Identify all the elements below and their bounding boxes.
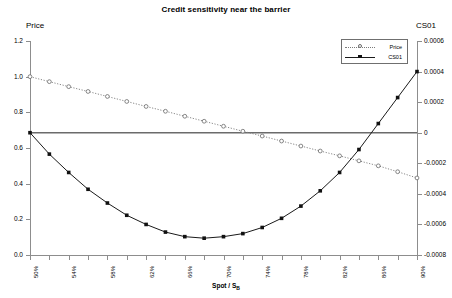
left-tick-label: 1.2 xyxy=(1,37,23,44)
data-point-marker-cs01 xyxy=(415,70,419,74)
x-tick-label: 82% xyxy=(342,266,348,278)
data-point-marker-cs01 xyxy=(260,226,264,230)
x-tick-label: 62% xyxy=(149,266,155,278)
data-point-marker-cs01 xyxy=(377,122,381,126)
x-tick-mark xyxy=(224,256,225,260)
data-point-marker-price xyxy=(144,105,148,109)
x-tick-mark xyxy=(69,256,70,260)
x-tick-mark xyxy=(301,256,302,260)
data-point-marker-price xyxy=(183,114,187,118)
right-tick-label: -0.0008 xyxy=(424,251,446,258)
legend-item-cs01: CS01 xyxy=(345,52,404,62)
data-point-marker-cs01 xyxy=(67,171,71,175)
left-tick-label: 0.4 xyxy=(1,180,23,187)
data-point-marker-price xyxy=(241,129,245,133)
data-point-marker-cs01 xyxy=(357,148,361,152)
left-tick-label: 0.2 xyxy=(1,215,23,222)
right-tick-label: 0.0004 xyxy=(424,68,444,75)
x-tick-label: 50% xyxy=(33,266,39,278)
x-tick-mark xyxy=(127,256,128,260)
data-point-marker-price xyxy=(338,154,342,158)
right-tick-label: 0 xyxy=(424,129,428,136)
filled-square-marker-icon xyxy=(358,55,362,59)
data-point-marker-price xyxy=(28,75,32,79)
series-canvas xyxy=(30,41,417,255)
x-tick-label: 66% xyxy=(187,266,193,278)
chart-title: Credit sensitivity near the barrier xyxy=(0,5,452,14)
right-tick-label: 0.0002 xyxy=(424,98,444,105)
data-point-marker-cs01 xyxy=(338,171,342,175)
data-point-marker-cs01 xyxy=(241,232,245,236)
x-tick-label: 70% xyxy=(226,266,232,278)
data-point-marker-price xyxy=(280,139,284,143)
x-axis-title: Spot / SB xyxy=(0,282,452,291)
data-point-marker-price xyxy=(376,164,380,168)
x-tick-label: 78% xyxy=(303,266,309,278)
data-point-marker-price xyxy=(415,176,419,180)
data-point-marker-price xyxy=(106,95,110,99)
data-point-marker-cs01 xyxy=(222,235,226,239)
data-point-marker-cs01 xyxy=(183,235,187,239)
x-tick-mark xyxy=(262,256,263,260)
left-tick-label: 1.0 xyxy=(1,73,23,80)
x-tick-mark xyxy=(320,256,321,260)
data-point-marker-price xyxy=(164,109,168,113)
legend-label-price: Price xyxy=(377,44,404,50)
x-tick-label: 54% xyxy=(71,266,77,278)
data-point-marker-cs01 xyxy=(125,213,129,217)
data-point-marker-price xyxy=(47,80,51,84)
x-tick-mark xyxy=(107,256,108,260)
x-tick-mark xyxy=(146,256,147,260)
x-tick-label: 58% xyxy=(110,266,116,278)
data-point-marker-price xyxy=(202,119,206,123)
data-point-marker-cs01 xyxy=(106,201,110,205)
data-point-marker-price xyxy=(67,85,71,89)
left-tick-label: 0.0 xyxy=(1,251,23,258)
right-axis-title: CS01 xyxy=(416,21,436,30)
data-point-marker-cs01 xyxy=(144,223,148,227)
x-tick-mark xyxy=(243,256,244,260)
open-circle-marker-icon xyxy=(358,44,362,48)
data-point-marker-price xyxy=(86,90,90,94)
x-tick-mark xyxy=(185,256,186,260)
x-tick-mark xyxy=(340,256,341,260)
x-tick-mark xyxy=(417,256,418,260)
data-point-marker-cs01 xyxy=(86,187,90,191)
right-tick-label: -0.0006 xyxy=(424,220,446,227)
x-tick-mark xyxy=(30,256,31,260)
right-tick-mark xyxy=(418,194,422,195)
x-tick-mark xyxy=(204,256,205,260)
series-line-cs01 xyxy=(30,72,417,239)
data-point-marker-cs01 xyxy=(280,217,284,221)
x-axis-title-text: Spot / S xyxy=(212,282,236,289)
left-axis-title: Price xyxy=(26,21,44,30)
data-point-marker-cs01 xyxy=(396,96,400,100)
x-tick-mark xyxy=(88,256,89,260)
data-point-marker-price xyxy=(125,100,129,104)
x-tick-label: 90% xyxy=(420,266,426,278)
plot-area xyxy=(30,41,417,255)
data-point-marker-price xyxy=(299,144,303,148)
x-tick-mark xyxy=(165,256,166,260)
legend-swatch-price xyxy=(345,43,375,52)
data-point-marker-cs01 xyxy=(299,204,303,208)
data-point-marker-cs01 xyxy=(48,152,52,156)
x-tick-label: 86% xyxy=(381,266,387,278)
right-tick-mark xyxy=(418,41,422,42)
right-tick-mark xyxy=(418,255,422,256)
data-point-marker-price xyxy=(318,149,322,153)
data-point-marker-price xyxy=(222,124,226,128)
x-tick-mark xyxy=(359,256,360,260)
x-axis-title-subscript: B xyxy=(236,285,240,291)
left-tick-label: 0.6 xyxy=(1,144,23,151)
legend-label-cs01: CS01 xyxy=(377,54,404,60)
x-tick-mark xyxy=(49,256,50,260)
data-point-marker-price xyxy=(396,170,400,174)
data-point-marker-cs01 xyxy=(28,131,32,135)
data-point-marker-price xyxy=(357,159,361,163)
data-point-marker-cs01 xyxy=(202,236,206,240)
right-tick-label: -0.0004 xyxy=(424,190,446,197)
data-point-marker-cs01 xyxy=(164,230,168,234)
right-tick-mark xyxy=(418,163,422,164)
x-tick-mark xyxy=(398,256,399,260)
